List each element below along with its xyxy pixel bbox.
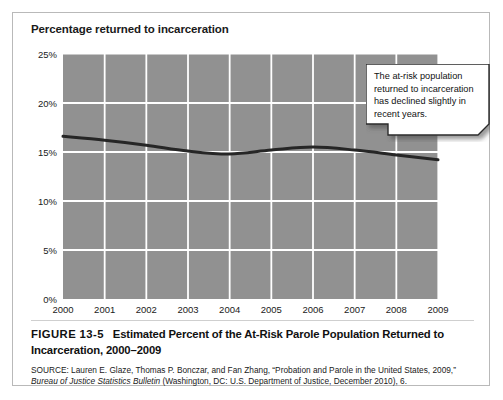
x-axis-tick-label: 2004 (219, 304, 240, 315)
source-note: SOURCE: Lauren E. Glaze, Thomas P. Boncz… (31, 365, 479, 388)
x-axis-tick-label: 2009 (427, 304, 448, 315)
source-text-part2: (Washington, DC: U.S. Department of Just… (160, 376, 407, 386)
x-axis-tick-label: 2003 (177, 304, 198, 315)
x-axis-tick-labels: 2000200120022003200420052006200720082009 (52, 304, 448, 315)
x-axis-tick-label: 2006 (302, 304, 323, 315)
x-axis-tick-label: 2008 (386, 304, 407, 315)
y-axis-tick-label: 5% (43, 245, 57, 256)
x-axis-tick-label: 2002 (136, 304, 157, 315)
source-label: SOURCE: (31, 365, 69, 375)
source-text-part1: Lauren E. Glaze, Thomas P. Bonczar, and … (69, 365, 456, 375)
figure-frame: Percentage returned to incarceration 0%5… (12, 12, 490, 386)
y-axis-tick-label: 25% (38, 49, 58, 60)
y-axis-tick-labels: 0%5%10%15%20%25% (38, 49, 58, 305)
x-axis-tick-label: 2005 (261, 304, 282, 315)
figure-number: FIGURE 13-5 (31, 328, 104, 340)
y-axis-tick-label: 0% (43, 294, 57, 305)
y-axis-tick-label: 15% (38, 147, 58, 158)
x-axis-tick-label: 2001 (94, 304, 115, 315)
figure-caption: FIGURE 13-5Estimated Percent of the At-R… (31, 327, 475, 358)
callout-annotation: The at-risk population returned to incar… (366, 64, 490, 142)
caption-divider (31, 320, 474, 321)
callout-text: The at-risk population returned to incar… (374, 70, 482, 120)
source-publication-title: Bureau of Justice Statistics Bulletin (31, 376, 160, 386)
x-axis-tick-label: 2000 (52, 304, 73, 315)
y-axis-tick-label: 20% (38, 98, 58, 109)
y-axis-tick-label: 10% (38, 196, 58, 207)
x-axis-tick-label: 2007 (344, 304, 365, 315)
